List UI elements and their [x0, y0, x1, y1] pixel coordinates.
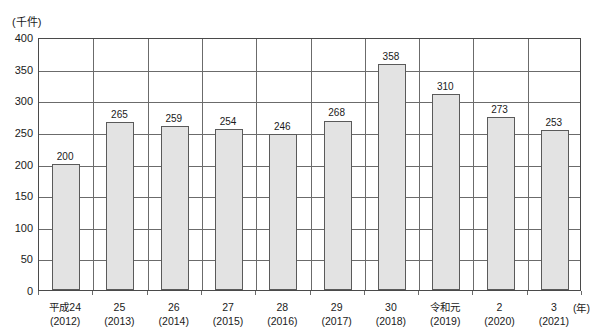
x-axis-category-label: 27(2015) [213, 300, 243, 328]
bar [52, 164, 80, 291]
x-axis-unit-label: (年) [573, 300, 590, 315]
x-axis-category-label: 令和元(2019) [430, 300, 460, 328]
bar [215, 129, 243, 290]
x-axis-era-label: 令和元 [430, 300, 460, 314]
y-axis-tick-label: 400 [15, 32, 33, 44]
x-axis-year-label: (2020) [484, 314, 514, 328]
x-axis-category-label: 26(2014) [159, 300, 189, 328]
bar-value-label: 254 [220, 116, 237, 127]
category-divider [93, 39, 94, 290]
x-axis-category-label: 平成24(2012) [49, 300, 81, 328]
x-axis-year-label: (2019) [430, 314, 460, 328]
x-axis-era-label: 28 [267, 300, 297, 314]
x-axis-category-label: 30(2018) [376, 300, 406, 328]
category-divider [148, 39, 149, 290]
gridline [39, 102, 580, 103]
bar-value-label: 310 [437, 81, 454, 92]
bar [324, 121, 352, 291]
bar [106, 122, 134, 290]
x-axis-year-label: (2017) [321, 314, 351, 328]
x-axis-tickmark [472, 291, 473, 295]
x-axis-year-label: (2018) [376, 314, 406, 328]
x-axis-tickmark [38, 291, 39, 295]
y-axis-tick-label: 150 [15, 190, 33, 202]
bar [269, 134, 297, 290]
x-axis-era-label: 30 [376, 300, 406, 314]
category-divider [311, 39, 312, 290]
category-divider [256, 39, 257, 290]
x-axis-era-label: 3 [539, 300, 569, 314]
bar [541, 130, 569, 290]
y-axis-tick-label: 250 [15, 127, 33, 139]
x-axis-year-label: (2015) [213, 314, 243, 328]
category-divider [528, 39, 529, 290]
x-axis-year-label: (2021) [539, 314, 569, 328]
y-axis-unit-label: (千件) [12, 13, 41, 29]
y-axis-tick-label: 300 [15, 95, 33, 107]
x-axis-era-label: 2 [484, 300, 514, 314]
x-axis-year-label: (2013) [104, 314, 134, 328]
bar-value-label: 358 [383, 51, 400, 62]
bar-chart: (千件) 050100150200250300350400 2002652592… [0, 0, 600, 331]
x-axis-tickmark [255, 291, 256, 295]
category-divider [365, 39, 366, 290]
x-axis-tickmark [310, 291, 311, 295]
x-axis-tickmark [147, 291, 148, 295]
y-axis-tick-label: 50 [21, 253, 33, 265]
y-axis-tick-label: 0 [27, 285, 33, 297]
x-axis-category-label: 2(2020) [484, 300, 514, 328]
bar-value-label: 253 [546, 117, 563, 128]
bar-value-label: 259 [165, 113, 182, 124]
x-axis-era-label: 29 [321, 300, 351, 314]
x-axis-era-label: 25 [104, 300, 134, 314]
bar-value-label: 273 [491, 104, 508, 115]
y-axis-tick-label: 100 [15, 222, 33, 234]
x-axis-tickmark [581, 291, 582, 295]
x-axis-era-label: 27 [213, 300, 243, 314]
bar [432, 94, 460, 290]
x-axis-year-label: (2016) [267, 314, 297, 328]
bar-value-label: 200 [57, 151, 74, 162]
bar-value-label: 265 [111, 109, 128, 120]
x-axis-era-label: 26 [159, 300, 189, 314]
x-axis-tickmark [201, 291, 202, 295]
category-divider [419, 39, 420, 290]
x-axis-category-label: 28(2016) [267, 300, 297, 328]
category-divider [202, 39, 203, 290]
plot-area [38, 38, 581, 291]
y-axis-tick-label: 350 [15, 64, 33, 76]
bar [487, 117, 515, 290]
bar [378, 64, 406, 290]
bar-value-label: 268 [328, 107, 345, 118]
bar [161, 126, 189, 290]
bar-value-label: 246 [274, 121, 291, 132]
x-axis-era-label: 平成24 [49, 300, 81, 314]
x-axis-year-label: (2012) [49, 314, 81, 328]
x-axis-tickmark [92, 291, 93, 295]
x-axis-tickmark [527, 291, 528, 295]
x-axis-tickmark [418, 291, 419, 295]
category-divider [473, 39, 474, 290]
gridline [39, 71, 580, 72]
x-axis-year-label: (2014) [159, 314, 189, 328]
x-axis-category-label: 29(2017) [321, 300, 351, 328]
x-axis-category-label: 3(2021) [539, 300, 569, 328]
x-axis-tickmark [364, 291, 365, 295]
y-axis-tick-label: 200 [15, 159, 33, 171]
x-axis-category-label: 25(2013) [104, 300, 134, 328]
